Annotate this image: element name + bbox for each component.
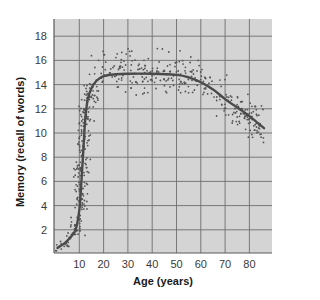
data-point [89, 159, 91, 161]
data-point [224, 108, 226, 110]
data-point [77, 176, 79, 178]
data-point [119, 67, 121, 69]
data-point [116, 81, 118, 83]
data-point [162, 48, 164, 50]
data-point [81, 207, 83, 209]
data-point [247, 109, 249, 111]
data-point [262, 109, 264, 111]
data-point [85, 88, 87, 90]
data-point [194, 89, 196, 91]
data-point [246, 119, 248, 121]
data-point [79, 230, 81, 232]
data-point [83, 203, 85, 205]
data-point [89, 73, 91, 75]
data-point [137, 69, 139, 71]
data-point [263, 137, 265, 139]
x-tick-label: 30 [122, 258, 134, 270]
data-point [244, 109, 246, 111]
data-point [147, 80, 149, 82]
data-point [205, 78, 207, 80]
data-point [127, 48, 129, 50]
data-point [189, 71, 191, 73]
data-point [118, 78, 120, 80]
data-point [83, 181, 85, 183]
data-point [74, 207, 76, 209]
data-point [155, 88, 157, 90]
data-point [232, 120, 234, 122]
data-point [158, 61, 160, 63]
data-point [226, 74, 228, 76]
data-point [79, 226, 81, 228]
data-point [73, 168, 75, 170]
data-point [83, 109, 85, 111]
data-point [251, 134, 253, 136]
data-point [168, 78, 170, 80]
data-point [80, 108, 82, 110]
data-point [63, 245, 65, 247]
x-tick-label: 50 [170, 258, 182, 270]
data-point [86, 167, 88, 169]
data-point [256, 126, 258, 128]
data-point [224, 103, 226, 105]
data-point [87, 118, 89, 120]
data-point [79, 146, 81, 148]
data-point [66, 235, 68, 237]
x-tick-label: 60 [195, 258, 207, 270]
data-point [234, 108, 236, 110]
data-point [164, 85, 166, 87]
data-point [86, 142, 88, 144]
data-point [147, 58, 149, 60]
data-point [78, 123, 80, 125]
data-point [77, 167, 79, 169]
data-point [79, 136, 81, 138]
data-point [146, 70, 148, 72]
data-point [83, 85, 85, 87]
data-point [223, 110, 225, 112]
data-point [178, 89, 180, 91]
data-point [77, 185, 79, 187]
data-point [77, 143, 79, 145]
data-point [60, 241, 62, 243]
data-point [260, 136, 262, 138]
data-point [91, 97, 93, 99]
data-point [235, 121, 237, 123]
y-tick-label: 14 [35, 79, 47, 91]
data-point [241, 101, 243, 103]
data-point [166, 92, 168, 94]
data-point [145, 77, 147, 79]
data-point [142, 93, 144, 95]
data-point [200, 71, 202, 73]
data-point [203, 91, 205, 93]
data-point [256, 132, 258, 134]
data-point [174, 66, 176, 68]
data-point [156, 70, 158, 72]
data-point [252, 111, 254, 113]
data-point [192, 92, 194, 94]
data-point [82, 118, 84, 120]
data-point [74, 224, 76, 226]
data-point [94, 67, 96, 69]
data-point [141, 76, 143, 78]
plot-area [54, 19, 272, 253]
data-point [254, 129, 256, 131]
data-point [81, 208, 83, 210]
data-point [84, 200, 86, 202]
data-point [200, 79, 202, 81]
data-point [79, 149, 81, 151]
data-point [77, 233, 79, 235]
data-point [79, 151, 81, 153]
data-point [138, 63, 140, 65]
data-point [86, 171, 88, 173]
data-point [197, 60, 199, 62]
data-point [84, 205, 86, 207]
data-point [79, 228, 81, 230]
data-point [160, 80, 162, 82]
data-point [129, 80, 131, 82]
data-point [84, 185, 86, 187]
data-point [157, 48, 159, 50]
data-point [135, 81, 137, 83]
data-point [88, 139, 90, 141]
data-point [185, 66, 187, 68]
data-point [80, 220, 82, 222]
data-point [93, 120, 95, 122]
